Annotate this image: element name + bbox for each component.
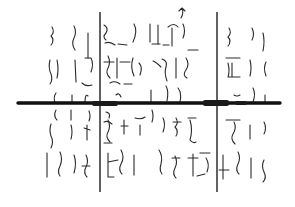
squiggle-stroke: [263, 160, 266, 182]
bar-knot: [203, 100, 229, 106]
bar-knot: [92, 101, 118, 106]
squiggle-stroke: [73, 26, 76, 50]
squiggle-stroke: [59, 152, 62, 176]
squiggle-stroke: [107, 120, 110, 142]
squiggle-stroke: [50, 124, 53, 148]
squiggle-stroke: [163, 118, 165, 132]
squiggle-stroke: [265, 62, 267, 76]
squiggle-stroke: [82, 155, 90, 177]
squiggle-stroke: [104, 112, 112, 124]
bar-knot: [235, 101, 247, 105]
squiggle-stroke: [168, 25, 178, 47]
squiggle-stroke: [234, 95, 240, 96]
sketch-canvas: [0, 0, 295, 207]
squiggle-stroke: [74, 155, 76, 173]
squiggle-stroke: [179, 8, 185, 18]
squiggle-stroke: [135, 117, 145, 119]
squiggle-stroke: [139, 63, 141, 75]
squiggle-stroke: [250, 60, 251, 76]
squiggle-stroke: [49, 60, 52, 84]
squiggle-stroke: [105, 42, 127, 45]
squiggle-stroke: [159, 150, 162, 174]
squiggle-stroke: [228, 28, 230, 46]
squiggle-stroke: [188, 154, 198, 176]
squiggle-stroke: [89, 111, 90, 121]
squiggle-strokes: [47, 8, 266, 182]
squiggle-stroke: [253, 88, 255, 102]
squiggle-stroke: [133, 24, 136, 42]
squiggle-stroke: [71, 125, 72, 139]
squiggle-stroke: [183, 24, 185, 38]
squiggle-stroke: [152, 44, 169, 45]
squiggle-stroke: [132, 58, 134, 76]
squiggle-stroke: [121, 120, 128, 134]
squiggle-stroke: [152, 110, 153, 122]
squiggle-stroke: [108, 153, 118, 177]
squiggle-stroke: [173, 118, 181, 136]
squiggle-stroke: [82, 83, 92, 86]
squiggle-stroke: [197, 153, 210, 176]
squiggle-stroke: [84, 125, 90, 140]
squiggle-stroke: [172, 156, 180, 178]
squiggle-stroke: [151, 86, 181, 103]
squiggle-stroke: [263, 33, 264, 51]
squiggle-stroke: [226, 120, 240, 144]
squiggle-stroke: [153, 59, 167, 81]
squiggle-stroke: [104, 25, 107, 40]
squiggle-stroke: [264, 122, 266, 134]
squiggle-stroke: [107, 56, 110, 78]
squiggle-stroke: [57, 60, 58, 78]
squiggle-stroke: [237, 152, 240, 174]
squiggle-stroke: [188, 118, 196, 143]
squiggle-stroke: [228, 63, 240, 77]
squiggle-stroke: [110, 82, 132, 84]
squiggle-stroke: [120, 150, 123, 174]
squiggle-stroke: [85, 58, 93, 72]
squiggle-stroke: [219, 155, 229, 179]
squiggle-stroke: [252, 28, 254, 40]
squiggle-stroke: [75, 60, 76, 82]
squiggle-stroke: [55, 110, 57, 120]
squiggle-stroke: [184, 58, 188, 78]
squiggle-stroke: [51, 27, 53, 45]
squiggle-stroke: [116, 94, 121, 97]
